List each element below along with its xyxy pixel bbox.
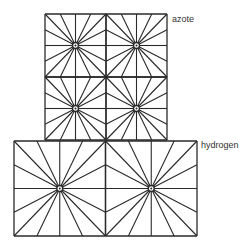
ray-line [45, 46, 76, 78]
ray-line [106, 109, 137, 125]
ray-line [76, 109, 107, 141]
label-azote: azote [172, 15, 194, 24]
ray-line [45, 14, 76, 46]
atom-dot-icon [75, 45, 77, 47]
ray-line [121, 14, 136, 46]
ray-line [121, 77, 136, 109]
ray-line [45, 30, 76, 46]
ray-line [60, 165, 106, 189]
ray-line [151, 165, 197, 189]
ray-line [76, 77, 107, 109]
ray-line [37, 189, 60, 237]
ray-line [151, 189, 197, 237]
ray-line [121, 109, 136, 141]
ray-line [76, 46, 107, 78]
ray-line [76, 14, 91, 46]
ray-line [106, 77, 137, 109]
lattice-drawing [0, 0, 252, 251]
ray-line [137, 30, 168, 46]
ray-line [76, 109, 107, 125]
ray-line [106, 165, 152, 189]
ray-line [137, 46, 168, 62]
ray-line [137, 109, 168, 141]
ray-line [60, 189, 106, 213]
atom-dot-icon [136, 108, 138, 110]
ray-line [137, 109, 168, 125]
ray-line [60, 141, 83, 189]
ray-line [45, 77, 76, 109]
ray-line [60, 189, 83, 237]
ray-line [137, 14, 168, 46]
ray-line [106, 46, 137, 78]
label-hydrogen: hydrogen [201, 141, 239, 150]
ray-line [151, 189, 197, 213]
atom-dot-icon [150, 188, 152, 190]
ray-line [76, 77, 91, 109]
ray-line [14, 165, 60, 189]
ray-line [106, 189, 152, 237]
ray-line [14, 189, 60, 237]
ray-line [76, 46, 91, 78]
ray-line [60, 141, 106, 189]
ray-line [45, 93, 76, 109]
ray-line [128, 189, 151, 237]
ray-line [37, 141, 60, 189]
lattice-diagram: azote hydrogen [0, 0, 252, 251]
ray-line [76, 109, 91, 141]
ray-line [137, 46, 152, 78]
ray-line [76, 30, 107, 46]
ray-line [60, 46, 75, 78]
ray-line [106, 189, 152, 213]
ray-line [14, 189, 60, 213]
ray-line [106, 30, 137, 46]
ray-line [76, 46, 107, 62]
ray-line [60, 189, 106, 237]
ray-line [137, 109, 152, 141]
ray-line [45, 109, 76, 141]
ray-line [60, 109, 75, 141]
ray-line [151, 189, 174, 237]
ray-line [14, 141, 60, 189]
ray-line [151, 141, 174, 189]
ray-line [137, 77, 168, 109]
ray-line [137, 14, 152, 46]
atom-dot-icon [75, 108, 77, 110]
ray-line [106, 93, 137, 109]
atom-dot-icon [136, 45, 138, 47]
ray-line [128, 141, 151, 189]
atom-dot-icon [59, 188, 61, 190]
ray-line [106, 14, 137, 46]
ray-line [151, 141, 197, 189]
ray-line [121, 46, 136, 78]
ray-line [45, 46, 76, 62]
ray-line [137, 93, 168, 109]
ray-line [60, 14, 75, 46]
ray-line [106, 109, 137, 141]
ray-line [106, 141, 152, 189]
ray-line [106, 46, 137, 62]
ray-line [76, 14, 107, 46]
ray-line [60, 77, 75, 109]
ray-line [137, 46, 168, 78]
ray-line [137, 77, 152, 109]
ray-line [76, 93, 107, 109]
ray-line [45, 109, 76, 125]
